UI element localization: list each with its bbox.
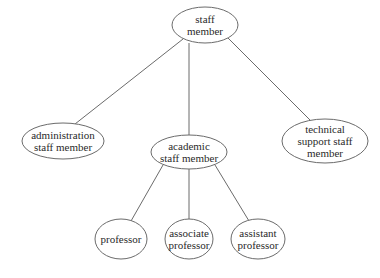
node-label: academic [168,140,210,152]
node-label: technical [305,123,345,135]
node-label: member [187,25,223,37]
node-label: member [307,147,343,159]
node-label: assistant [239,227,276,239]
node-label: support staff [297,135,352,147]
edge-staff-to-admin [75,39,183,124]
hierarchy-diagram: staffmemberadministrationstaff memberaca… [0,0,380,278]
edge-staff-to-technical [228,38,310,120]
node-label: staff member [160,152,218,164]
node-label: professor [101,233,142,245]
node-assistant: assistantprofessor [231,219,285,259]
node-academic: academicstaff member [151,135,227,169]
nodes: staffmemberadministrationstaff memberaca… [22,7,368,259]
node-staff: staffmember [172,7,238,43]
node-technical: technicalsupport staffmember [282,119,368,163]
edge-academic-to-professor [131,165,163,221]
edges [75,38,310,221]
node-label: professor [169,239,210,251]
node-label: associate [169,227,209,239]
node-label: professor [238,239,279,251]
edge-academic-to-assistant [215,165,249,221]
node-admin: administrationstaff member [22,123,104,159]
node-professor: professor [95,219,147,259]
node-associate: associateprofessor [165,219,213,259]
node-label: staff [195,13,215,25]
node-label: administration [31,129,95,141]
node-label: staff member [34,141,92,153]
